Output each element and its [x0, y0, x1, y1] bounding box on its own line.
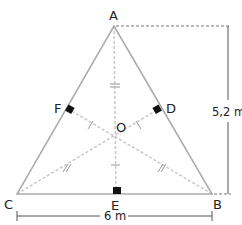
midpoint-label-F: F	[54, 101, 61, 116]
median-AE	[114, 26, 116, 194]
vertex-label-A: A	[109, 8, 118, 23]
midpoint-label-D: D	[166, 101, 176, 116]
median-CD	[17, 110, 157, 194]
right-angle-marker-E	[113, 187, 121, 194]
triangle-diagram: 5,2 m 6 m A B C D E F O	[0, 0, 242, 225]
vertex-label-B: B	[213, 197, 222, 212]
vertex-label-C: C	[4, 197, 13, 212]
midpoint-label-E: E	[111, 198, 119, 213]
center-label-O: O	[116, 120, 126, 135]
median-BF	[70, 110, 212, 194]
height-label: 5,2 m	[212, 105, 242, 119]
